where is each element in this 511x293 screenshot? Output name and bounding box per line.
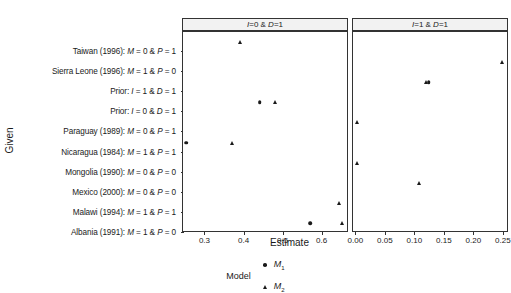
data-point-left-6 bbox=[308, 221, 312, 225]
y-axis-label-7: Mexico (2000): M = 0 & P = 0 bbox=[72, 187, 176, 196]
x-tick-mark-right-4 bbox=[473, 232, 474, 235]
y-axis-label-8: Malawi (1994): M = 1 & P = 1 bbox=[73, 207, 176, 216]
triangle-icon bbox=[260, 282, 270, 292]
y-axis-category-labels: Taiwan (1996): M = 0 & P = 1Sierra Leone… bbox=[18, 28, 180, 220]
data-point-left-4 bbox=[230, 141, 234, 145]
data-point-right-3 bbox=[355, 120, 359, 124]
plot-area-left bbox=[182, 31, 348, 232]
x-tick-mark-left-2 bbox=[283, 232, 284, 235]
y-axis-title-text: Given bbox=[4, 127, 15, 153]
data-point-right-0 bbox=[500, 60, 504, 64]
data-point-right-2 bbox=[424, 80, 428, 84]
x-tick-mark-right-0 bbox=[355, 232, 356, 235]
x-tick-mark-left-1 bbox=[244, 232, 245, 235]
y-axis-label-6: Mongolia (1990): M = 0 & P = 0 bbox=[65, 167, 176, 176]
legend: Model M1M2 bbox=[0, 259, 511, 293]
strip-text-left: I=0 & D=1 bbox=[247, 20, 283, 29]
x-axis-title-text: Estimate bbox=[270, 237, 309, 248]
y-axis-label-5: Nicaragua (1984): M = 1 & P = 1 bbox=[61, 147, 176, 156]
y-axis-label-0: Taiwan (1996): M = 0 & P = 1 bbox=[73, 47, 176, 56]
y-axis-label-1: Sierra Leone (1996): M = 1 & P = 0 bbox=[52, 67, 176, 76]
panel-strip-label-left: I=0 & D=1 bbox=[182, 18, 348, 31]
y-axis-label-4: Paraguay (1989): M = 0 & P = 1 bbox=[63, 127, 176, 136]
data-point-left-0 bbox=[238, 40, 242, 44]
panel-i1-d1: I=1 & D=1 0.000.050.100.150.200.25 bbox=[352, 18, 508, 232]
legend-label-1: M1 bbox=[274, 259, 285, 271]
panel-i0-d1: I=0 & D=1 0.30.40.50.6 bbox=[182, 18, 348, 232]
panel-strip-label-right: I=1 & D=1 bbox=[352, 18, 508, 31]
y-axis-label-2: Prior: I = 1 & D = 1 bbox=[110, 87, 176, 96]
strip-text-right: I=1 & D=1 bbox=[412, 20, 448, 29]
data-point-left-1 bbox=[258, 101, 262, 105]
x-tick-mark-right-2 bbox=[414, 232, 415, 235]
x-axis-title: Estimate bbox=[34, 237, 511, 248]
legend-key-1[interactable]: M1 bbox=[260, 259, 285, 271]
data-point-left-5 bbox=[337, 201, 341, 205]
legend-title: Model bbox=[226, 271, 251, 281]
y-axis-label-3: Prior: I = 0 & D = 1 bbox=[110, 107, 176, 116]
data-point-left-3 bbox=[184, 141, 188, 145]
data-point-left-7 bbox=[340, 221, 344, 225]
data-point-left-2 bbox=[273, 100, 277, 104]
x-tick-mark-right-5 bbox=[503, 232, 504, 235]
legend-label-2: M2 bbox=[274, 281, 285, 293]
circle-icon bbox=[260, 260, 270, 270]
x-tick-mark-right-1 bbox=[385, 232, 386, 235]
data-point-right-5 bbox=[417, 181, 421, 185]
legend-key-2[interactable]: M2 bbox=[260, 281, 285, 293]
y-axis-title: Given bbox=[2, 95, 16, 185]
data-point-right-4 bbox=[355, 161, 359, 165]
legend-keys: M1M2 bbox=[260, 259, 285, 293]
y-axis-label-9: Albania (1991): M = 1 & P = 0 bbox=[71, 227, 176, 236]
x-tick-mark-left-3 bbox=[322, 232, 323, 235]
x-tick-mark-right-3 bbox=[444, 232, 445, 235]
plot-area-right bbox=[352, 31, 508, 232]
x-tick-mark-left-0 bbox=[204, 232, 205, 235]
